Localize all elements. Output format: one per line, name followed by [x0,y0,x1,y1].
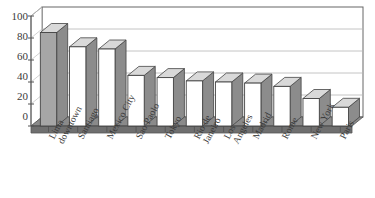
x-tick-label: Rome [280,116,300,141]
x-tick-label-line: Tokyo [163,114,183,140]
x-tick-label-line: Mexico City [105,93,137,141]
x-tick-label-line: Madrid [251,111,273,141]
x-tick-label: New York [309,101,336,140]
x-tick-label: Limadowntown [47,100,84,146]
x-tick-label: LosAngeles [222,108,255,146]
x-tick-label-line: Sao Paolo [134,101,161,140]
x-tick-label: Madrid [251,111,273,141]
x-tick-label: Sao Paolo [134,101,161,140]
x-tick-label: Paris [338,119,356,141]
bar-chart: 100 80 60 40 20 0 [0,0,375,198]
x-tick-label-line: New York [309,101,336,140]
x-tick-label-line: Rome [280,116,300,141]
x-tick-label-line: Paris [338,119,356,141]
x-tick-label: Rio deJaneiro [192,111,223,145]
x-tick-label: Mexico City [105,93,137,141]
x-tick-label: Tokyo [163,114,183,140]
x-axis: LimadowntownSantiagoMexico CitySao Paolo… [0,0,375,198]
